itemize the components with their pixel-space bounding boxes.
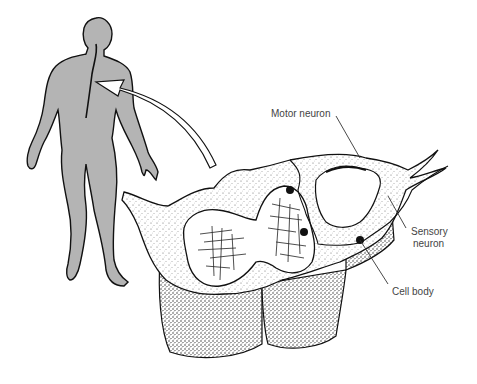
human-figure bbox=[27, 18, 158, 286]
label-motor-neuron: Motor neuron bbox=[271, 108, 330, 120]
label-sensory-neuron-line1: Sensory bbox=[411, 226, 448, 238]
label-sensory-neuron-line2: neuron bbox=[413, 238, 444, 250]
spinal-cord-diagram bbox=[0, 0, 477, 384]
label-cell-body: Cell body bbox=[392, 286, 434, 298]
spinal-cord-section bbox=[122, 150, 448, 358]
